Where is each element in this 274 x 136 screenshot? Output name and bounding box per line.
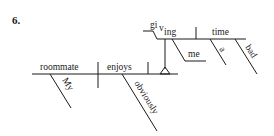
gerund-suffix: ing (164, 27, 176, 37)
modifier-bad: bad (243, 43, 259, 60)
a-modifier-line (210, 39, 226, 65)
direct-object-word: time (212, 27, 229, 37)
subject-word: roommate (40, 62, 79, 72)
gerund-stem: gi (150, 20, 158, 30)
sentence-diagram: 6. roommate enjoys My obviously gi v ing… (0, 0, 274, 136)
problem-number: 6. (12, 14, 21, 26)
indirect-object-slant (172, 39, 185, 61)
verb-word: enjoys (107, 62, 132, 72)
modifier-my: My (60, 76, 76, 93)
gerund-step-riser (153, 31, 157, 39)
indirect-object-word: me (188, 49, 200, 59)
